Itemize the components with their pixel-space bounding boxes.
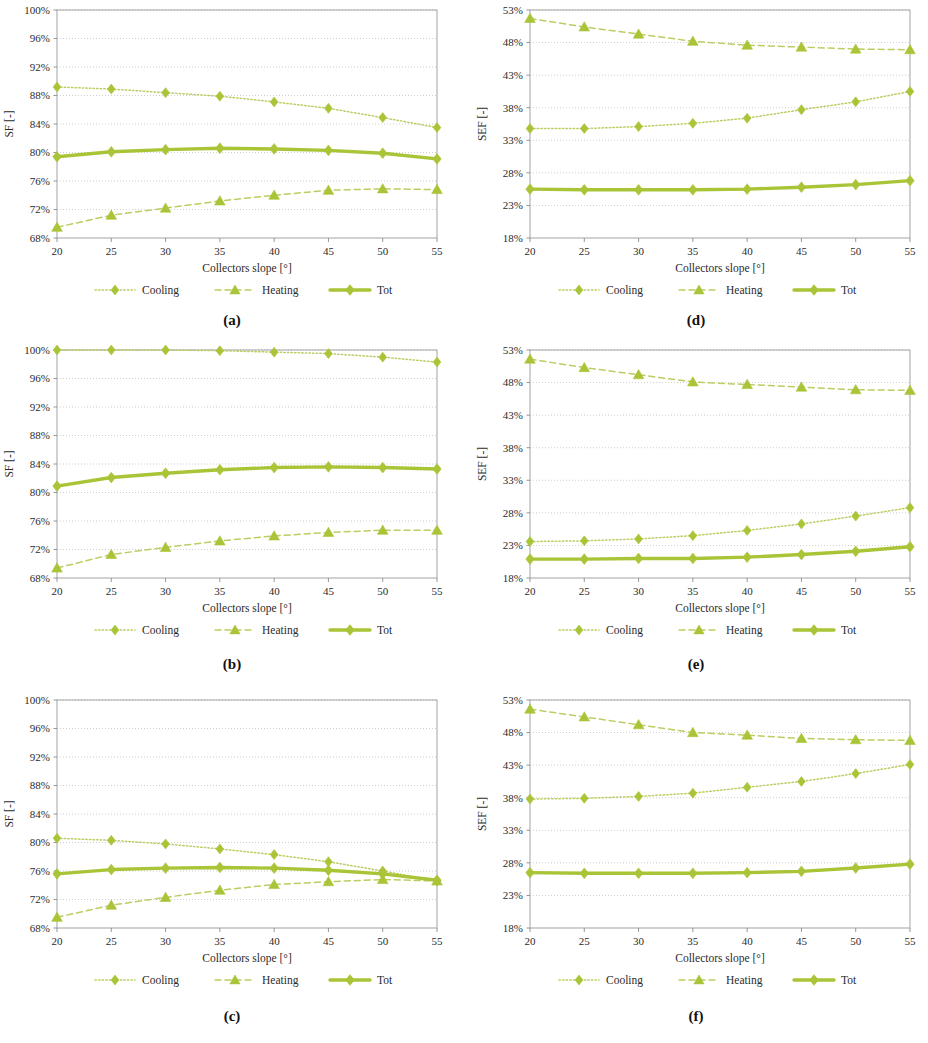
series-cooling xyxy=(53,82,441,133)
legend-item-tot[interactable]: Tot xyxy=(330,284,393,296)
legend-item-tot[interactable]: Tot xyxy=(794,974,857,986)
panel-d: 18%23%28%33%38%43%48%53%2025303540455055… xyxy=(464,0,928,340)
panel-e-plot: 18%23%28%33%38%43%48%53%2025303540455055… xyxy=(464,340,928,658)
x-axis-title: Collectors slope [°] xyxy=(202,262,292,275)
data-point-marker-diamond xyxy=(325,103,333,113)
legend-item-cooling[interactable]: Cooling xyxy=(95,284,179,297)
data-point-marker-diamond xyxy=(689,788,697,798)
legend-item-tot[interactable]: Tot xyxy=(794,624,857,636)
y-tick-label: 48% xyxy=(503,726,523,738)
y-axis-title: SEF [-] xyxy=(476,447,488,481)
x-tick-label: 50 xyxy=(850,245,862,257)
y-tick-label: 84% xyxy=(30,808,50,820)
series-heating xyxy=(525,13,916,54)
legend-marker-diamond xyxy=(111,625,119,635)
data-point-marker-diamond xyxy=(53,481,61,492)
panel-e-caption: (e) xyxy=(464,656,928,673)
legend-item-tot[interactable]: Tot xyxy=(330,974,393,986)
legend-marker-diamond xyxy=(575,625,583,635)
data-point-marker-diamond xyxy=(107,146,115,157)
legend-item-heating[interactable]: Heating xyxy=(679,624,763,637)
x-tick-label: 50 xyxy=(377,245,389,257)
y-tick-label: 92% xyxy=(30,751,50,763)
legend-item-heating[interactable]: Heating xyxy=(215,284,299,297)
legend-item-heating[interactable]: Heating xyxy=(679,284,763,297)
x-tick-label: 35 xyxy=(687,585,699,597)
x-tick-label: 30 xyxy=(160,585,172,597)
legend-label: Tot xyxy=(841,284,857,296)
y-tick-label: 68% xyxy=(30,572,50,584)
panel-c-caption: (c) xyxy=(0,1008,464,1025)
y-tick-label: 48% xyxy=(503,376,523,388)
x-tick-label: 50 xyxy=(377,935,389,947)
data-point-marker-diamond xyxy=(743,552,751,563)
legend-item-cooling[interactable]: Cooling xyxy=(559,284,643,297)
panel-a-plot: 68%72%76%80%84%88%92%96%100%202530354045… xyxy=(0,0,464,312)
legend-item-heating[interactable]: Heating xyxy=(679,974,763,987)
y-tick-label: 96% xyxy=(30,372,50,384)
data-point-marker-diamond xyxy=(689,868,697,879)
data-point-marker-diamond xyxy=(107,84,115,94)
legend-item-cooling[interactable]: Cooling xyxy=(559,974,643,987)
legend-label: Heating xyxy=(726,974,763,987)
y-tick-label: 88% xyxy=(30,429,50,441)
data-point-marker-diamond xyxy=(526,867,534,878)
x-tick-label: 55 xyxy=(432,935,444,947)
data-point-marker-diamond xyxy=(743,113,751,123)
legend-item-heating[interactable]: Heating xyxy=(215,974,299,987)
data-point-marker-diamond xyxy=(743,184,751,195)
legend-label: Heating xyxy=(262,624,299,637)
data-point-marker-triangle xyxy=(525,704,536,713)
panel-e: 18%23%28%33%38%43%48%53%2025303540455055… xyxy=(464,340,928,690)
data-point-marker-diamond xyxy=(53,151,61,162)
legend-item-cooling[interactable]: Cooling xyxy=(95,624,179,637)
data-point-marker-diamond xyxy=(216,346,224,356)
data-point-marker-diamond xyxy=(852,97,860,107)
y-tick-label: 28% xyxy=(503,167,523,179)
x-axis-title: Collectors slope [°] xyxy=(202,602,292,615)
data-point-marker-diamond xyxy=(161,144,169,155)
data-point-marker-diamond xyxy=(270,850,278,860)
data-point-marker-diamond xyxy=(433,123,441,133)
legend-label: Tot xyxy=(377,974,393,986)
x-tick-label: 20 xyxy=(525,935,537,947)
x-tick-label: 25 xyxy=(579,585,591,597)
data-point-marker-diamond xyxy=(798,105,806,115)
legend-item-tot[interactable]: Tot xyxy=(794,284,857,296)
y-tick-label: 18% xyxy=(503,572,523,584)
y-tick-label: 68% xyxy=(30,922,50,934)
legend-item-cooling[interactable]: Cooling xyxy=(95,974,179,987)
series-cooling xyxy=(526,503,914,547)
data-point-marker-diamond xyxy=(798,776,806,786)
data-point-marker-diamond xyxy=(53,345,61,355)
x-tick-label: 30 xyxy=(633,245,645,257)
data-point-marker-triangle xyxy=(432,184,443,193)
data-point-marker-diamond xyxy=(216,464,224,475)
legend-item-heating[interactable]: Heating xyxy=(215,624,299,637)
data-point-marker-triangle xyxy=(905,45,916,54)
x-tick-label: 35 xyxy=(214,585,226,597)
data-point-marker-diamond xyxy=(852,179,860,190)
legend-item-tot[interactable]: Tot xyxy=(330,624,393,636)
legend-marker-diamond xyxy=(111,975,119,985)
x-tick-label: 40 xyxy=(742,935,754,947)
data-point-marker-diamond xyxy=(433,154,441,165)
y-tick-label: 68% xyxy=(30,232,50,244)
plot-frame xyxy=(530,10,910,238)
data-point-marker-triangle xyxy=(215,536,226,545)
series-line xyxy=(57,87,437,128)
data-point-marker-diamond xyxy=(270,462,278,473)
series-tot xyxy=(53,461,441,491)
y-tick-label: 76% xyxy=(30,865,50,877)
data-point-marker-diamond xyxy=(107,472,115,483)
legend-item-cooling[interactable]: Cooling xyxy=(559,624,643,637)
legend-marker-diamond xyxy=(346,625,354,636)
x-tick-label: 55 xyxy=(905,585,917,597)
y-tick-label: 53% xyxy=(503,344,523,356)
data-point-marker-diamond xyxy=(216,143,224,154)
y-tick-label: 92% xyxy=(30,61,50,73)
series-line xyxy=(530,764,910,799)
series-heating xyxy=(525,354,916,395)
data-point-marker-triangle xyxy=(432,525,443,534)
series-line xyxy=(57,189,437,227)
